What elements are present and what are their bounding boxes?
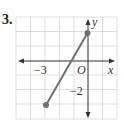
x-axis-label: x bbox=[107, 63, 114, 77]
y-axis-label: y bbox=[91, 15, 98, 29]
x-tick-label: −3 bbox=[34, 63, 47, 77]
y-tick-label: −2 bbox=[70, 84, 83, 98]
arrow-up-icon bbox=[86, 19, 91, 25]
arrow-down-icon bbox=[86, 112, 91, 118]
arrow-left-icon bbox=[18, 59, 24, 64]
endpoint-bottom bbox=[43, 102, 49, 108]
endpoint-top bbox=[85, 30, 91, 36]
origin-label: O bbox=[77, 63, 86, 77]
coordinate-graph: y x O −3 −2 bbox=[0, 0, 124, 124]
